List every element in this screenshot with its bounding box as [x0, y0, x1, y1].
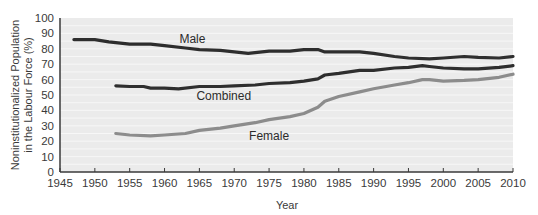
y-tick-label: 20: [41, 135, 54, 147]
y-axis-title-line: in the Labour Force (%): [22, 37, 34, 153]
x-tick-label: 1965: [187, 177, 213, 189]
y-tick-label: 90: [41, 27, 54, 39]
x-tick-label: 1945: [47, 177, 73, 189]
y-tick-label: 40: [41, 104, 54, 116]
x-tick-label: 2010: [500, 177, 526, 189]
x-tick-label: 1975: [256, 177, 282, 189]
y-tick-label: 50: [41, 89, 54, 101]
x-tick-label: 1980: [291, 177, 317, 189]
labour-force-chart: 0102030405060708090100 19451950195519601…: [0, 0, 538, 215]
y-axis-title: Noninstitutionalized Populationin the La…: [9, 20, 34, 170]
x-tick-label: 1960: [152, 177, 178, 189]
y-tick-label: 70: [41, 58, 54, 70]
x-tick-label: 2005: [465, 177, 491, 189]
x-tick-label: 2000: [431, 177, 457, 189]
x-tick-label: 1995: [396, 177, 422, 189]
x-tick-label: 1950: [82, 177, 108, 189]
y-axis-title-line: Noninstitutionalized Population: [9, 20, 21, 170]
series-label-female: Female: [249, 129, 289, 143]
y-tick-label: 80: [41, 43, 54, 55]
x-tick-label: 1985: [326, 177, 352, 189]
series-label-combined: Combined: [196, 89, 251, 103]
y-tick-label: 30: [41, 120, 54, 132]
x-axis-title: Year: [276, 199, 299, 211]
y-tick-label: 100: [35, 12, 54, 24]
y-axis: 0102030405060708090100: [35, 12, 60, 178]
y-tick-label: 10: [41, 151, 54, 163]
series-label-male: Male: [179, 32, 205, 46]
x-tick-label: 1990: [361, 177, 387, 189]
x-tick-label: 1970: [221, 177, 247, 189]
y-tick-label: 60: [41, 74, 54, 86]
x-tick-label: 1955: [117, 177, 143, 189]
